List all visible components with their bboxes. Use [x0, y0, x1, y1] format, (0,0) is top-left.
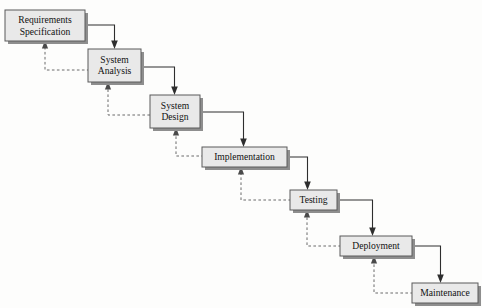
node-system-analysis[interactable]: System Analysis [88, 49, 144, 85]
node-label-system-design-line2: Design [161, 111, 188, 122]
node-label-testing: Testing [299, 194, 327, 205]
feedback-edge-maintenance-to-deployment [371, 256, 413, 294]
node-label-deployment: Deployment [352, 240, 400, 251]
flow-edge-deployment-to-maintenance [412, 246, 444, 283]
flow-edge-implementation-to-testing [287, 157, 311, 190]
node-label-requirements-specification-line1: Requirements [18, 14, 72, 25]
diagram-nodes: Requirements Specification System Analys… [5, 10, 481, 306]
node-deployment[interactable]: Deployment [340, 236, 415, 259]
node-label-requirements-specification-line2: Specification [20, 26, 71, 37]
feedback-edge-testing-to-implementation [238, 167, 291, 201]
flow-edge-requirements-to-analysis [85, 25, 118, 49]
node-label-maintenance: Maintenance [420, 287, 470, 298]
node-label-system-analysis-line1: System [100, 54, 129, 65]
node-system-design[interactable]: System Design [150, 95, 203, 131]
node-requirements-specification[interactable]: Requirements Specification [5, 10, 88, 44]
waterfall-model-diagram: Requirements Specification System Analys… [0, 0, 482, 308]
node-label-system-analysis-line2: Analysis [98, 65, 132, 76]
flow-edge-testing-to-deployment [337, 200, 376, 236]
diagram-canvas: Requirements Specification System Analys… [0, 0, 482, 308]
node-maintenance[interactable]: Maintenance [412, 283, 481, 306]
flow-edge-design-to-implementation [200, 112, 247, 147]
feedback-edge-deployment-to-testing [304, 210, 341, 247]
node-testing[interactable]: Testing [290, 190, 340, 213]
node-label-implementation: Implementation [214, 151, 275, 162]
flow-edge-analysis-to-design [141, 67, 178, 95]
node-label-system-design-line1: System [161, 100, 190, 111]
node-implementation[interactable]: Implementation [202, 147, 290, 170]
